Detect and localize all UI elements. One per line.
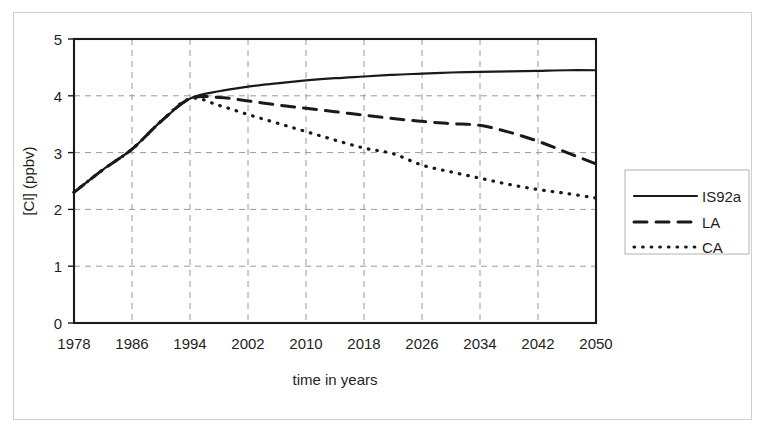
x-tick-label: 2002	[231, 335, 264, 352]
horizontal-gridlines	[74, 96, 596, 266]
x-tick-label: 2026	[405, 335, 438, 352]
series-line-la	[74, 96, 596, 192]
x-tick-label: 2018	[347, 335, 380, 352]
chart-figure: 012345 197819861994200220102018202620342…	[0, 0, 770, 440]
x-axis-title: time in years	[292, 371, 377, 388]
x-tick-label: 1994	[173, 335, 206, 352]
y-tick-label: 4	[54, 88, 62, 105]
legend-label-is92a: IS92a	[702, 188, 742, 205]
y-tick-label: 5	[54, 31, 62, 48]
x-tick-label: 2034	[463, 335, 496, 352]
y-tick-label: 2	[54, 201, 62, 218]
legend-label-ca: CA	[702, 239, 723, 256]
x-axis-tick-labels: 1978198619942002201020182026203420422050	[57, 335, 612, 352]
y-axis-tick-labels: 012345	[54, 31, 62, 332]
plot-area-frame	[74, 39, 596, 323]
vertical-gridlines	[132, 39, 538, 323]
chart-legend: IS92aLACA	[625, 170, 749, 256]
y-axis-title: [Cl] (ppbv)	[20, 146, 37, 215]
line-chart: 012345 197819861994200220102018202620342…	[0, 0, 770, 440]
x-tick-label: 1986	[115, 335, 148, 352]
legend-box	[625, 170, 749, 254]
legend-label-la: LA	[702, 214, 720, 231]
data-series-group	[74, 70, 596, 198]
x-tick-label: 2010	[289, 335, 322, 352]
x-tick-label: 1978	[57, 335, 90, 352]
y-tick-label: 3	[54, 145, 62, 162]
y-tick-label: 0	[54, 315, 62, 332]
y-tick-label: 1	[54, 258, 62, 275]
x-tick-label: 2050	[579, 335, 612, 352]
x-tick-label: 2042	[521, 335, 554, 352]
